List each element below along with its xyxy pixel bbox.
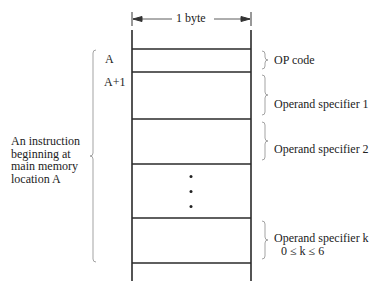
address-label-a: A: [105, 53, 114, 66]
right-braces: [262, 51, 268, 259]
address-label-a-plus-1: A+1: [104, 76, 125, 89]
brace-opcode-icon: [262, 51, 268, 69]
brace-operand1-icon: [262, 75, 268, 115]
arrow-left-icon: [133, 17, 142, 22]
brace-instruction-icon: [90, 50, 96, 262]
brace-operandk-icon: [262, 221, 268, 259]
brace-operand2-icon: [262, 122, 268, 160]
instruction-description: An instruction beginning at main memory …: [11, 135, 80, 185]
field-label-operand-1: Operand specifier 1: [274, 98, 369, 111]
vertical-dots-icon: [190, 175, 193, 208]
arrow-right-icon: [241, 17, 250, 22]
byte-width-label: 1 byte: [176, 12, 206, 25]
byte-boundaries: [132, 49, 251, 263]
memory-column: [132, 30, 251, 281]
field-label-operand-2: Operand specifier 2: [274, 143, 369, 156]
field-label-opcode: OP code: [274, 54, 315, 67]
k-constraint-label: 0 ≤ k ≤ 6: [281, 245, 324, 258]
